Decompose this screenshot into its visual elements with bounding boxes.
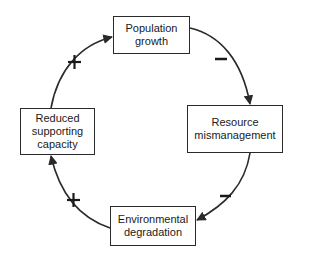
sign-plus-icon [68, 55, 81, 69]
node-label: growth [135, 35, 168, 48]
edge-environment-to-reduced [51, 156, 110, 228]
node-resource-mismanagement: Resource mismanagement [187, 105, 283, 153]
edge-resource-to-environment [197, 153, 250, 220]
sign-plus-icon [67, 193, 80, 207]
node-environmental-degradation: Environmental degradation [110, 206, 196, 246]
node-label: Population [126, 22, 178, 35]
edge-population-to-resource [190, 28, 250, 104]
node-label: Resource [211, 116, 258, 129]
node-reduced-supporting-capacity: Reduced supporting capacity [20, 108, 95, 155]
node-label: capacity [37, 138, 77, 151]
node-population-growth: Population growth [113, 16, 190, 54]
node-label: mismanagement [194, 129, 275, 142]
node-label: degradation [124, 226, 182, 239]
node-label: Reduced [35, 112, 79, 125]
edge-reduced-to-population [51, 37, 112, 108]
node-label: Environmental [118, 213, 188, 226]
node-label: supporting [32, 125, 83, 138]
